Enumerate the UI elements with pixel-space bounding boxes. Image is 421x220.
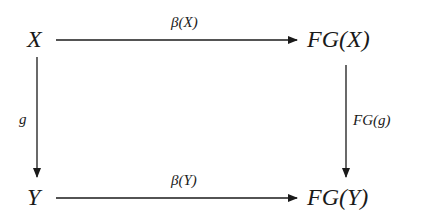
node-x: X [27,27,42,51]
label-fg-g: FG(g) [353,113,391,128]
node-fg-y: FG(Y) [307,185,368,209]
node-y: Y [27,185,40,209]
label-beta-x: β(X) [171,15,198,30]
label-g: g [19,112,27,127]
node-fg-x: FG(X) [307,27,370,51]
label-beta-y: β(Y) [171,173,197,188]
